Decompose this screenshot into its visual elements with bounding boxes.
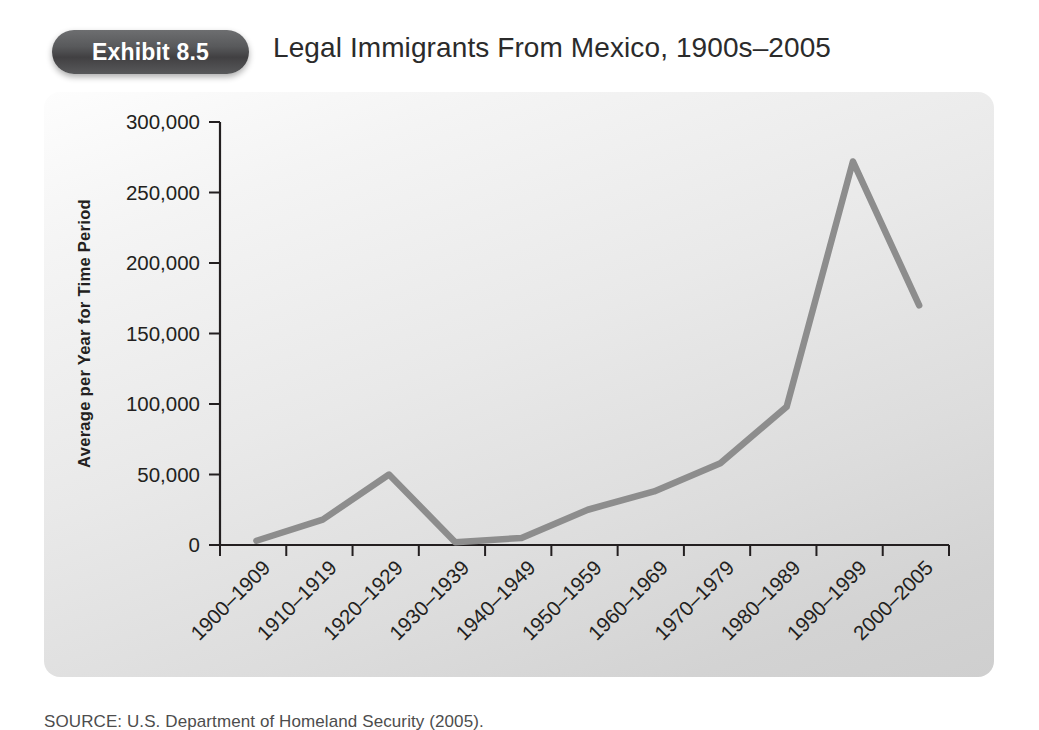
x-axis-tick-labels: 1900–19091910–19191920–19291930–19391940… [186,556,938,645]
exhibit-badge-label: Exhibit 8.5 [92,39,209,66]
y-axis-ticks [209,122,220,545]
y-tick-label: 250,000 [126,181,200,204]
chart-header: Exhibit 8.5 Legal Immigrants From Mexico… [0,0,1039,92]
y-tick-label: 50,000 [137,463,200,486]
y-tick-label: 0 [189,533,200,556]
line-chart: 050,000100,000150,000200,000250,000300,0… [44,92,994,677]
y-tick-label: 100,000 [126,392,200,415]
data-series-line [256,161,919,542]
y-tick-label: 150,000 [126,322,200,345]
exhibit-badge: Exhibit 8.5 [52,30,249,74]
source-note: SOURCE: U.S. Department of Homeland Secu… [44,712,484,730]
y-axis-title: Average per Year for Time Period [75,199,93,468]
chart-panel: 050,000100,000150,000200,000250,000300,0… [44,92,994,677]
y-tick-label: 200,000 [126,251,200,274]
chart-axes [220,122,949,545]
y-tick-label: 300,000 [126,110,200,133]
y-axis-tick-labels: 050,000100,000150,000200,000250,000300,0… [126,110,200,556]
x-axis-ticks [220,545,949,556]
page-title: Legal Immigrants From Mexico, 1900s–2005 [273,32,831,64]
